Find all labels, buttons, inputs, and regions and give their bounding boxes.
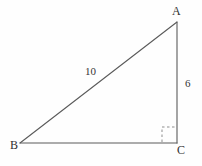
geometry-figure: A B C 10 6 [0, 0, 202, 166]
vertex-label-b: B [10, 139, 18, 151]
vertex-label-a: A [172, 5, 181, 17]
vertex-label-c: C [177, 144, 185, 156]
side-length-label-vertical-leg: 6 [185, 78, 191, 89]
triangle-side-hypotenuse-ba [20, 22, 177, 143]
triangle-drawing [0, 0, 202, 166]
right-angle-marker-icon [162, 127, 177, 142]
side-length-label-hypotenuse: 10 [85, 66, 96, 77]
